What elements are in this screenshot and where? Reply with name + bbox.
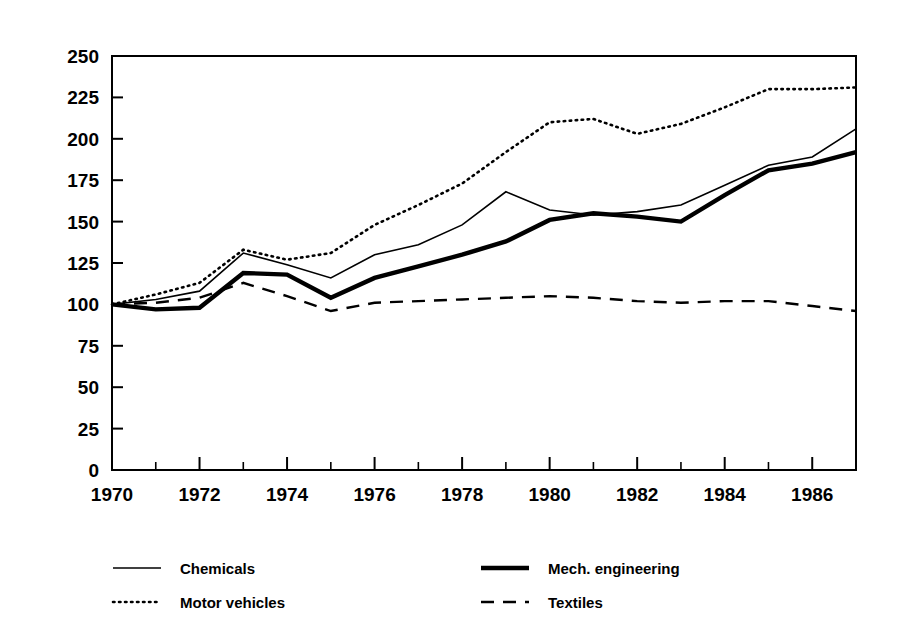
y-tick-label: 150: [67, 212, 99, 233]
legend-label: Chemicals: [180, 560, 255, 577]
y-tick-label: 225: [67, 87, 99, 108]
y-tick-label: 250: [67, 46, 99, 67]
plot-frame: [112, 56, 856, 470]
legend-label: Mech. engineering: [548, 560, 680, 577]
x-axis-tick-labels: 197019721974197619781980198219841986: [91, 484, 834, 505]
x-tick-label: 1980: [529, 484, 571, 505]
line-chart: 0255075100125150175200225250 19701972197…: [0, 0, 899, 644]
y-tick-label: 25: [78, 419, 100, 440]
chart-legend: ChemicalsMech. engineeringMotor vehicles…: [113, 560, 680, 611]
x-tick-label: 1982: [616, 484, 658, 505]
x-tick-label: 1978: [441, 484, 483, 505]
y-tick-label: 125: [67, 253, 99, 274]
series-line-motor-vehicles: [112, 87, 856, 304]
x-tick-label: 1984: [704, 484, 747, 505]
x-tick-label: 1972: [178, 484, 220, 505]
x-axis-ticks: [112, 457, 856, 470]
x-tick-label: 1970: [91, 484, 133, 505]
series-line-chemicals: [112, 129, 856, 305]
y-tick-label: 100: [67, 294, 99, 315]
y-axis-ticks: [112, 56, 123, 470]
x-tick-label: 1974: [266, 484, 309, 505]
y-tick-label: 175: [67, 170, 99, 191]
x-tick-label: 1976: [353, 484, 395, 505]
y-tick-label: 50: [78, 377, 99, 398]
y-tick-label: 200: [67, 129, 99, 150]
chart-figure: 0255075100125150175200225250 19701972197…: [0, 0, 899, 644]
y-axis-tick-labels: 0255075100125150175200225250: [67, 46, 99, 481]
legend-label: Motor vehicles: [180, 594, 285, 611]
y-tick-label: 75: [78, 336, 100, 357]
legend-label: Textiles: [548, 594, 603, 611]
y-tick-label: 0: [88, 460, 99, 481]
x-tick-label: 1986: [791, 484, 833, 505]
data-series-group: [112, 87, 856, 311]
